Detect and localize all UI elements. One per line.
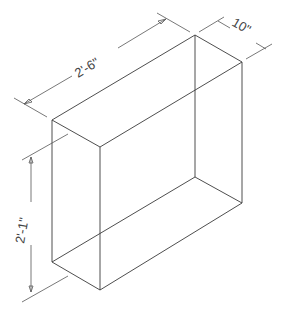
length-dimension: 2'-6" bbox=[14, 13, 190, 117]
isometric-box-drawing: 2'-6" 10" 2'-1" bbox=[0, 0, 285, 310]
height-label: 2'-1" bbox=[12, 216, 31, 244]
height-dimension: 2'-1" bbox=[12, 134, 68, 302]
depth-dimension: 10" bbox=[199, 15, 272, 59]
length-label: 2'-6" bbox=[72, 54, 102, 80]
depth-label: 10" bbox=[230, 15, 254, 38]
